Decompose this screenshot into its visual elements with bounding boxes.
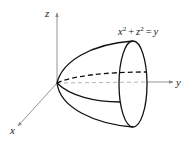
y-axis-label: y xyxy=(175,76,181,88)
equation-equals: = xyxy=(146,26,152,37)
equation-z-exponent: 2 xyxy=(140,25,144,33)
paraboloid-diagram: z y x x2+z2=y xyxy=(0,0,191,141)
paraboloid-back-curve-dashed xyxy=(57,72,146,83)
z-axis-label: z xyxy=(44,7,50,19)
equation-y: y xyxy=(153,26,159,37)
y-axis-hidden-part xyxy=(57,82,147,83)
x-axis-label: x xyxy=(9,124,15,136)
paraboloid-front-curve xyxy=(57,83,120,102)
paraboloid-opening-ellipse xyxy=(119,41,147,127)
equation-x-exponent: 2 xyxy=(123,25,127,33)
x-axis xyxy=(18,83,57,126)
equation-plus: + xyxy=(128,26,134,37)
paraboloid-lower-profile xyxy=(57,83,133,127)
paraboloid-upper-profile xyxy=(57,41,133,83)
surface-equation: x2+z2=y xyxy=(117,25,159,37)
